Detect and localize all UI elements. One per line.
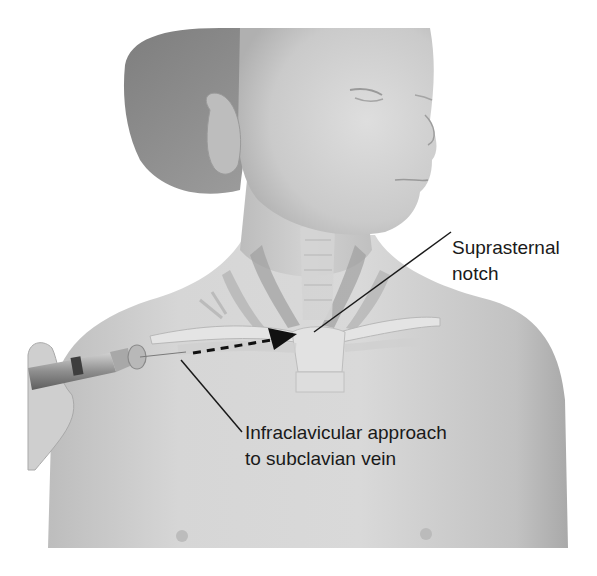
label-line: notch xyxy=(452,261,560,287)
suprasternal-notch-label: Suprasternal notch xyxy=(452,235,560,287)
label-line: Infraclavicular approach xyxy=(245,420,447,446)
label-line: Suprasternal xyxy=(452,235,560,261)
infraclavicular-approach-label: Infraclavicular approach to subclavian v… xyxy=(245,420,447,472)
manubrium xyxy=(292,327,345,372)
face xyxy=(238,28,436,235)
anatomy-drawing xyxy=(0,0,597,576)
label-line: to subclavian vein xyxy=(245,446,447,472)
illustration: Suprasternal notch Infraclavicular appro… xyxy=(0,0,597,576)
